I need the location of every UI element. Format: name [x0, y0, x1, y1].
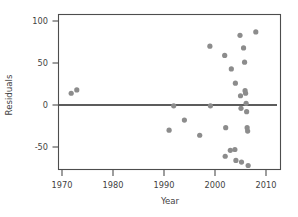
scatter-point	[245, 128, 250, 133]
y-tick-label: 100	[32, 16, 48, 26]
chart-canvas: -50050100 19701980199020002010 Year Resi…	[0, 0, 298, 217]
scatter-point	[237, 33, 242, 38]
x-tick-label: 2000	[205, 180, 226, 190]
scatter-point	[222, 53, 227, 58]
scatter-point	[244, 109, 249, 114]
scatter-point	[229, 66, 234, 71]
scatter-point	[223, 154, 228, 159]
scatter-point	[239, 160, 244, 165]
x-tick-label: 1970	[52, 180, 73, 190]
scatter-point	[232, 147, 237, 152]
y-tick-label: 0	[43, 100, 48, 110]
x-tick-label: 1980	[103, 180, 124, 190]
scatter-point	[207, 44, 212, 49]
x-axis-title: Year	[160, 196, 180, 206]
scatter-point	[242, 60, 247, 65]
scatter-point	[233, 158, 238, 163]
scatter-point	[243, 91, 248, 96]
scatter-point	[246, 163, 251, 168]
scatter-point	[233, 81, 238, 86]
scatter-point	[238, 106, 243, 111]
x-tick-label: 2010	[256, 180, 277, 190]
scatter-point	[244, 101, 249, 106]
scatter-point	[171, 103, 176, 108]
x-tick-label: 1990	[154, 180, 175, 190]
y-axis-title: Residuals	[4, 74, 14, 115]
scatter-point	[74, 87, 79, 92]
scatter-point	[253, 29, 258, 34]
scatter-point	[228, 148, 233, 153]
y-tick-label: -50	[35, 142, 48, 152]
scatter-point	[238, 93, 243, 98]
residuals-scatter-chart: -50050100 19701980199020002010 Year Resi…	[0, 0, 298, 217]
scatter-point	[223, 125, 228, 130]
scatter-point	[241, 45, 246, 50]
y-tick-label: 50	[38, 58, 48, 68]
scatter-point	[167, 128, 172, 133]
scatter-point	[197, 133, 202, 138]
scatter-point	[69, 91, 74, 96]
scatter-point	[182, 118, 187, 123]
scatter-point	[208, 103, 213, 108]
